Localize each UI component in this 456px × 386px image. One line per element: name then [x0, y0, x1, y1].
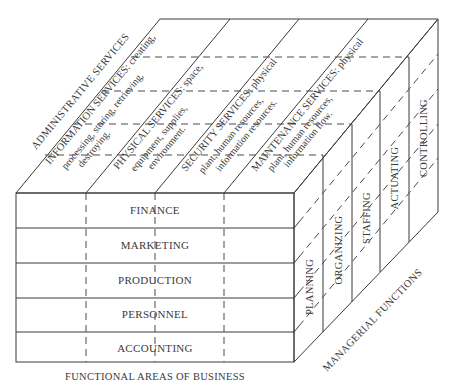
row-label-finance: FINANCE: [130, 204, 180, 216]
row-continuation: [294, 222, 299, 228]
row-label-production: PRODUCTION: [118, 274, 192, 286]
layer-label-planning: PLANNING: [304, 259, 315, 315]
axis-label-functional-areas: FUNCTIONAL AREAS OF BUSINESS: [65, 371, 245, 382]
row-label-personnel: PERSONNEL: [122, 308, 188, 320]
layer-label-staffing: STAFFING: [361, 192, 372, 244]
row-continuation: [294, 257, 299, 263]
layer-label-controlling: CONTROLLING: [418, 99, 429, 177]
layer-label-actuating: ACTUATING: [389, 146, 400, 209]
row-label-marketing: MARKETING: [121, 239, 190, 251]
row-label-accounting: ACCOUNTING: [117, 342, 193, 354]
row-continuation: [294, 292, 299, 298]
row-continuation: [294, 326, 299, 332]
right-face: [294, 19, 438, 362]
svg-text:processing, storing, retrievin: processing, storing, retrieving,: [59, 70, 145, 171]
cube-diagram: FINANCE MARKETING PRODUCTION PERSONNEL A…: [0, 0, 456, 386]
layer-label-organizing: ORGANIZING: [333, 215, 344, 284]
top-divider: [224, 19, 368, 193]
